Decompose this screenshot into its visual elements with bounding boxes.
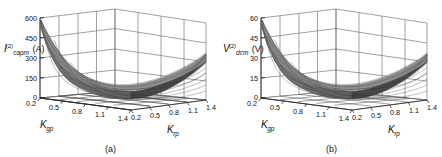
x-tick-0.2-a: 0.2 [26, 99, 36, 108]
panel-caption-a: (a) [0, 144, 221, 154]
surface-plot-b-svg: 60 45 30 15 0 0.2 0.5 0.8 1.1 1.4 [221, 0, 442, 157]
x-tick-1.4-b: 1.4 [339, 114, 349, 123]
z-axis-sub-a: capm [13, 49, 29, 56]
y-tick-0.2-b: 0.2 [352, 113, 362, 122]
surface-plot-a-svg: 600 450 300 150 0 0.2 0.5 0.8 1.1 1.4 [0, 0, 221, 157]
panel-caption-b: (b) [221, 144, 442, 154]
surface-plot-panel-a: 600 450 300 150 0 0.2 0.5 0.8 1.1 1.4 [0, 0, 221, 157]
y-tick-0.5-b: 0.5 [371, 111, 381, 120]
y-axis-label-a: Krp [167, 125, 179, 135]
z-tick-450-a: 450 [25, 34, 37, 43]
x-tick-0.2-b: 0.2 [247, 99, 257, 108]
x-tick-0.8-a: 0.8 [72, 107, 82, 116]
z-tick-150-a: 150 [25, 74, 37, 83]
y-tick-0.5-a: 0.5 [150, 111, 160, 120]
z-tick-30-b: 30 [250, 54, 258, 63]
y-tick-0.8-a: 0.8 [169, 108, 179, 117]
z-axis-sup-b: (2) [229, 43, 236, 49]
x-axis-sub-a: gp [46, 125, 53, 132]
z-axis-unit-b: (V) [252, 44, 264, 54]
z-axis-label-a: I(2)capm (A) [4, 44, 45, 54]
y-tick-0.8-b: 0.8 [390, 108, 400, 117]
z-tick-600-a: 600 [25, 14, 37, 23]
y-tick-1.4-a: 1.4 [206, 103, 216, 112]
y-tick-1.1-a: 1.1 [188, 106, 198, 115]
y-tick-1.4-b: 1.4 [427, 103, 437, 112]
z-axis-unit-a: (A) [33, 44, 45, 54]
y-axis-sub-b: rp [394, 130, 400, 137]
y-axis-label-b: Krp [388, 125, 400, 135]
x-axis-label-a: Kgp [40, 120, 54, 130]
surface-mesh-b [262, 20, 427, 99]
y-axis-sub-a: rp [173, 130, 179, 137]
z-axis-sup-a: (2) [6, 43, 13, 49]
x-tick-1.4-a: 1.4 [118, 114, 128, 123]
z-axis-sub-b: dcm [236, 49, 248, 56]
z-tick-45-b: 45 [250, 34, 258, 43]
x-tick-0.5-a: 0.5 [49, 103, 59, 112]
y-tick-0.2-a: 0.2 [131, 113, 141, 122]
x-axis-label-b: Kgp [261, 120, 275, 130]
surface-mesh-a [40, 20, 206, 110]
x-tick-1.1-b: 1.1 [316, 110, 326, 119]
x-tick-1.1-a: 1.1 [95, 110, 105, 119]
x-axis-sub-b: gp [267, 125, 274, 132]
figure-container: 600 450 300 150 0 0.2 0.5 0.8 1.1 1.4 [0, 0, 442, 157]
z-tick-60-b: 60 [250, 14, 258, 23]
x-tick-0.5-b: 0.5 [270, 103, 280, 112]
y-tick-1.1-b: 1.1 [409, 106, 419, 115]
surface-plot-panel-b: 60 45 30 15 0 0.2 0.5 0.8 1.1 1.4 [221, 0, 442, 157]
x-tick-0.8-b: 0.8 [293, 107, 303, 116]
z-axis-label-b: V(2)dcm (V) [223, 44, 264, 54]
z-tick-15-b: 15 [250, 74, 258, 83]
